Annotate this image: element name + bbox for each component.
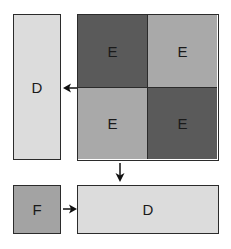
e-cell-bottom-left: E	[78, 88, 148, 159]
e-label: E	[177, 43, 187, 60]
e-label: E	[107, 115, 117, 132]
f-box: F	[13, 185, 61, 234]
e-grid: E E E E	[77, 14, 219, 161]
e-label: E	[177, 115, 187, 132]
arrow-down-icon	[114, 163, 126, 183]
arrow-left-icon	[62, 82, 78, 94]
f-label: F	[32, 201, 41, 218]
e-label: E	[107, 43, 117, 60]
bottom-d-box: D	[77, 185, 219, 234]
left-d-panel: D	[13, 14, 61, 160]
e-cell-bottom-right: E	[148, 88, 217, 159]
e-cell-top-left: E	[78, 15, 148, 88]
bottom-d-label: D	[143, 201, 154, 218]
arrow-right-icon	[62, 203, 78, 215]
left-d-label: D	[32, 79, 43, 96]
e-cell-top-right: E	[148, 15, 217, 88]
